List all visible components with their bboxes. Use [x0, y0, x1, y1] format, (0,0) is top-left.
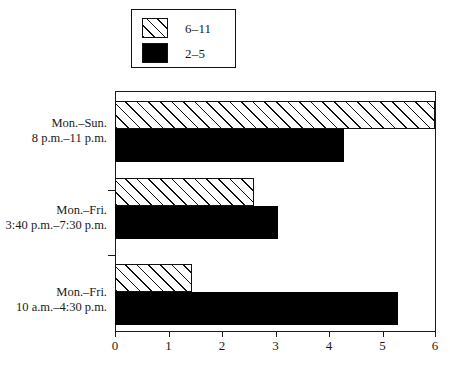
solid-swatch-icon — [142, 43, 168, 63]
x-axis-tick-label: 4 — [326, 339, 333, 352]
plot-top-border — [115, 91, 436, 92]
hatch-swatch-icon — [142, 18, 168, 38]
y-axis-tick — [108, 255, 116, 256]
x-axis-tick — [383, 331, 384, 337]
category-label-line2: 10 a.m.–4:30 p.m. — [16, 300, 107, 315]
bar-6-11-mon-fri-afternoon — [115, 178, 254, 206]
category-label-mon-fri-afternoon: Mon.–Fri. 3:40 p.m.–7:30 p.m. — [6, 203, 107, 233]
x-axis-tick — [115, 331, 116, 337]
bar-chart: 6–11 2–5 Mon.–Sun. 8 p.m.–11 p.m. Mon.–F… — [0, 0, 450, 370]
x-axis-tick — [169, 331, 170, 337]
x-axis-tick-label: 1 — [165, 339, 172, 352]
x-axis-tick — [329, 331, 330, 337]
category-label-line1: Mon.–Fri. — [56, 203, 107, 217]
legend-item-6-11: 6–11 — [142, 18, 211, 38]
category-label-line1: Mon.–Fri. — [56, 285, 107, 299]
plot-area: 0 1 2 3 4 5 6 — [115, 91, 436, 331]
x-axis-tick — [222, 331, 223, 337]
legend-label: 2–5 — [185, 47, 205, 60]
category-label-line1: Mon.–Sun. — [51, 116, 107, 130]
bar-2-5-mon-fri-daytime — [115, 292, 398, 325]
chart-legend: 6–11 2–5 — [131, 9, 236, 68]
bar-6-11-mon-fri-daytime — [115, 264, 192, 292]
bar-2-5-mon-sun-evening — [115, 129, 344, 162]
legend-label: 6–11 — [185, 22, 211, 35]
x-axis-tick-label: 2 — [219, 339, 226, 352]
x-axis-tick-label: 3 — [272, 339, 279, 352]
category-label-mon-fri-daytime: Mon.–Fri. 10 a.m.–4:30 p.m. — [16, 285, 107, 315]
x-axis-tick-label: 5 — [379, 339, 386, 352]
x-axis-tick-label: 0 — [112, 339, 119, 352]
category-label-line2: 8 p.m.–11 p.m. — [32, 131, 107, 146]
x-axis-tick — [276, 331, 277, 337]
x-axis-tick — [435, 331, 436, 337]
bar-2-5-mon-fri-afternoon — [115, 206, 278, 239]
category-label-line2: 3:40 p.m.–7:30 p.m. — [6, 218, 107, 233]
legend-item-2-5: 2–5 — [142, 43, 205, 63]
category-label-mon-sun-evening: Mon.–Sun. 8 p.m.–11 p.m. — [32, 116, 107, 146]
x-axis-tick-label: 6 — [432, 339, 439, 352]
bar-6-11-mon-sun-evening — [115, 101, 435, 129]
